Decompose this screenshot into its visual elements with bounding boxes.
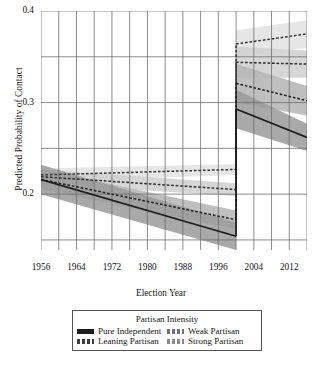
- legend-item[interactable]: Strong Partisan: [167, 336, 257, 346]
- x-tick-label: 1980: [127, 262, 167, 272]
- legend-item[interactable]: Weak Partisan: [167, 326, 257, 336]
- y-tick-label: 0.4: [8, 5, 34, 15]
- plot-area: [41, 11, 307, 250]
- x-axis-title: Election Year: [0, 288, 322, 298]
- legend-swatch: [77, 339, 94, 344]
- legend-items: Pure IndependentWeak PartisanLeaning Par…: [77, 326, 257, 346]
- legend-swatch: [167, 339, 184, 344]
- x-tick-label: 1964: [56, 262, 96, 272]
- y-tick-label: 0.3: [8, 97, 34, 107]
- legend-swatch: [167, 329, 184, 334]
- legend-item-label: Pure Independent: [98, 326, 161, 336]
- legend-item[interactable]: Pure Independent: [77, 326, 167, 336]
- legend-item[interactable]: Leaning Partisan: [77, 336, 167, 346]
- x-tick-label: 2004: [234, 262, 274, 272]
- y-tick-label: 0.2: [8, 188, 34, 198]
- plot-svg: [41, 11, 307, 250]
- legend: Partisan Intensity Pure IndependentWeak …: [72, 310, 262, 351]
- legend-row: Leaning PartisanStrong Partisan: [77, 336, 257, 346]
- x-tick-label: 1972: [92, 262, 132, 272]
- x-tick-label: 2012: [269, 262, 309, 272]
- y-axis-title: Predicted Probability of Contact: [14, 14, 24, 244]
- legend-item-label: Leaning Partisan: [98, 336, 159, 346]
- legend-item-label: Weak Partisan: [188, 326, 240, 336]
- x-tick-label: 1956: [21, 262, 61, 272]
- chart-figure: Predicted Probability of Contact 0.40.30…: [0, 0, 322, 377]
- legend-item-label: Strong Partisan: [188, 336, 243, 346]
- x-tick-label: 1988: [163, 262, 203, 272]
- legend-row: Pure IndependentWeak Partisan: [77, 326, 257, 336]
- legend-swatch: [77, 329, 94, 334]
- legend-title: Partisan Intensity: [77, 314, 257, 324]
- x-tick-label: 1996: [198, 262, 238, 272]
